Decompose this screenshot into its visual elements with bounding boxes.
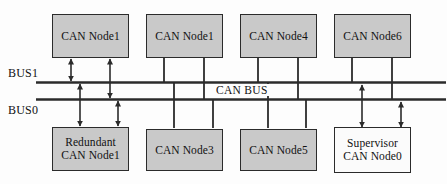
node-top-2-label: CAN Node1 <box>155 30 214 43</box>
node-bottom-3-label: CAN Node5 <box>249 144 308 157</box>
node-bottom-3[interactable]: CAN Node5 <box>240 129 317 171</box>
node-bottom-2-label: CAN Node3 <box>155 144 214 157</box>
bus0-label: BUS0 <box>8 103 38 118</box>
node-bottom-4[interactable]: Supervisor CAN Node0 <box>334 127 411 173</box>
node-top-3-label: CAN Node4 <box>249 30 308 43</box>
node-top-1-label: CAN Node1 <box>61 30 120 43</box>
node-bottom-1[interactable]: Redundant CAN Node1 <box>52 127 129 171</box>
can-bus-center-label: CAN BUS <box>213 84 271 96</box>
diagram-canvas: BUS1 BUS0 CAN BUS CAN Node1 CAN Node1 CA… <box>0 0 447 184</box>
node-top-3[interactable]: CAN Node4 <box>240 14 317 58</box>
node-bottom-1-label: Redundant CAN Node1 <box>61 136 120 162</box>
node-top-4-label: CAN Node6 <box>343 30 402 43</box>
node-bottom-2[interactable]: CAN Node3 <box>146 129 223 171</box>
node-top-4[interactable]: CAN Node6 <box>334 14 411 58</box>
node-bottom-4-label: Supervisor CAN Node0 <box>343 137 402 163</box>
node-top-1[interactable]: CAN Node1 <box>52 14 129 58</box>
node-top-2[interactable]: CAN Node1 <box>146 14 223 58</box>
bus1-label: BUS1 <box>8 66 38 81</box>
